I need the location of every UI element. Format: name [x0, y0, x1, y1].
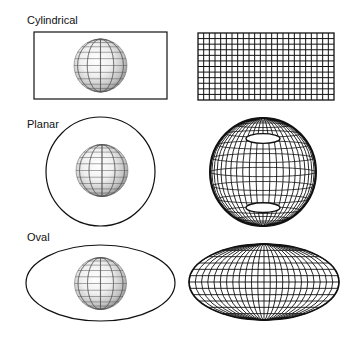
planar-projection-globe — [210, 118, 316, 226]
projection-diagram — [0, 0, 360, 339]
planar-globe — [76, 145, 128, 197]
cylindrical-globe — [74, 39, 127, 92]
cylindrical-projection-grid — [198, 33, 334, 100]
oval-globe — [75, 258, 127, 310]
oval-projection-grid — [189, 244, 339, 320]
